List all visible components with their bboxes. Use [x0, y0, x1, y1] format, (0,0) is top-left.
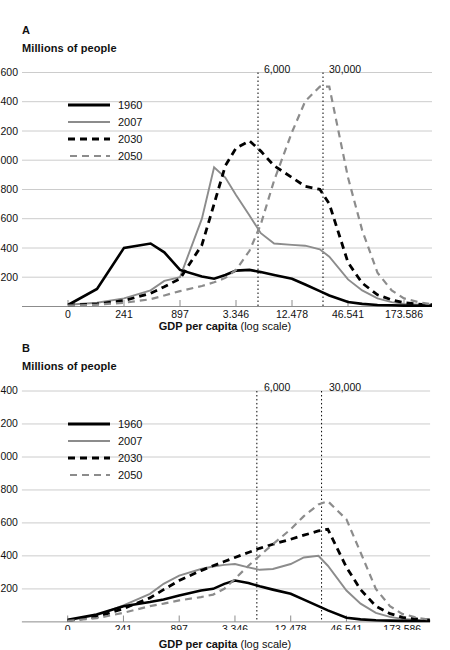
panel-a-legend: 1960 2007 2030 2050 [66, 96, 142, 164]
legend-line-2050-icon [66, 469, 112, 481]
panel-b-marker-label-6000: 6,000 [264, 381, 290, 393]
panel-a-ytick-1200: 1,200 [0, 125, 18, 137]
panel-b-ytick-200: 200 [0, 583, 18, 594]
panel-b-ytick-1000: 1,000 [0, 451, 18, 462]
panel-a-marker-label-6000: 6,000 [264, 63, 290, 75]
panel-a-legend-label-1960: 1960 [118, 99, 142, 111]
panel-b-xtick-897: 897 [170, 624, 188, 630]
panel-b-legend-label-2030: 2030 [118, 452, 142, 464]
panel-b-ytick-400: 400 [0, 550, 18, 561]
panel-b-x-tick-labels: 0 241 897 3,346 12,478 46,541 173,586 [65, 624, 421, 630]
legend-line-2050-icon [66, 150, 112, 162]
panel-b-x-axis-title: GDP per capita (log scale) [0, 638, 450, 650]
panel-b-marker-label-30000: 30,000 [329, 381, 361, 393]
panel-b-letter: B [22, 342, 30, 354]
panel-a-xtick-3346: 3,346 [223, 308, 249, 318]
panel-a-legend-item-2030[interactable]: 2030 [66, 130, 142, 147]
panel-a-series-1960 [68, 244, 432, 306]
legend-line-2030-icon [66, 133, 112, 145]
legend-line-2007-icon [66, 435, 112, 447]
panel-b-ytick-1200: 1,200 [0, 418, 18, 429]
legend-line-2007-icon [66, 116, 112, 128]
panel-a-ytick-600: 600 [0, 212, 18, 224]
panel-a-ytick-800: 800 [0, 183, 18, 195]
panel-a-legend-label-2030: 2030 [118, 133, 142, 145]
panel-a-marker-label-30000: 30,000 [329, 63, 361, 75]
panel-b-legend-label-2007: 2007 [118, 435, 142, 447]
panel-a-xtick-46541: 46,541 [332, 308, 364, 318]
panel-a-xtick-241: 241 [115, 308, 133, 318]
panel-b-legend-item-2007[interactable]: 2007 [66, 432, 142, 449]
panel-a-y-axis-title: Millions of people [22, 42, 117, 54]
panel-b-xtick-3346: 3,346 [222, 624, 248, 630]
panel-a-xtick-173586: 173,586 [385, 308, 423, 318]
panel-a-legend-label-2050: 2050 [118, 150, 142, 162]
panel-a-series-2030 [68, 141, 432, 305]
panel-a-xtick-897: 897 [171, 308, 189, 318]
panel-a-ytick-1600: 1,600 [0, 66, 18, 78]
panel-a-ytick-200: 200 [0, 271, 18, 283]
legend-line-2030-icon [66, 452, 112, 464]
panel-b-legend-label-1960: 1960 [118, 418, 142, 430]
panel-b-x-axis-title-light: (log scale) [237, 638, 291, 650]
panel-b-legend-label-2050: 2050 [118, 469, 142, 481]
panel-a-letter: A [22, 24, 30, 36]
panel-b-xtick-241: 241 [115, 624, 133, 630]
panel-a-legend-item-2050[interactable]: 2050 [66, 147, 142, 164]
panel-a-x-tick-labels: 0 241 897 3,346 12,478 46,541 173,586 [65, 308, 423, 318]
panel-b-legend: 1960 2007 2030 2050 [66, 415, 142, 483]
panel-a-ytick-400: 400 [0, 242, 18, 254]
panel-b-ytick-1400: 1,400 [0, 385, 18, 396]
panel-b-xtick-12478: 12,478 [275, 624, 307, 630]
panel-b-y-tick-labels: 1,400 1,200 1,000 800 600 400 200 [0, 385, 18, 594]
panel-a-xtick-12478: 12,478 [276, 308, 308, 318]
panel-b-ytick-600: 600 [0, 517, 18, 528]
panel-a-series-2007 [68, 167, 432, 305]
panel-a: A Millions of people [0, 0, 450, 340]
legend-line-1960-icon [66, 418, 112, 430]
panel-b-x-axis-title-strong: GDP per capita [159, 638, 238, 650]
panel-b-legend-item-2030[interactable]: 2030 [66, 449, 142, 466]
panel-a-legend-item-1960[interactable]: 1960 [66, 96, 142, 113]
legend-line-1960-icon [66, 99, 112, 111]
panel-b: B Millions of people [0, 330, 450, 641]
panel-b-ytick-800: 800 [0, 484, 18, 495]
panel-a-ytick-1400: 1,400 [0, 95, 18, 107]
panel-a-legend-label-2007: 2007 [118, 116, 142, 128]
panel-a-legend-item-2007[interactable]: 2007 [66, 113, 142, 130]
panel-b-series-2050 [68, 501, 430, 621]
panel-b-xtick-0: 0 [65, 624, 71, 630]
panel-b-xtick-46541: 46,541 [330, 624, 362, 630]
panel-a-xtick-0: 0 [65, 308, 71, 318]
panel-a-y-tick-labels: 1,600 1,400 1,200 1,000 800 600 400 200 [0, 66, 18, 283]
panel-b-legend-item-1960[interactable]: 1960 [66, 415, 142, 432]
panel-a-ytick-1000: 1,000 [0, 154, 18, 166]
panel-b-legend-item-2050[interactable]: 2050 [66, 466, 142, 483]
panel-b-y-axis-title: Millions of people [22, 360, 117, 372]
panel-b-xtick-173586: 173,586 [383, 624, 421, 630]
